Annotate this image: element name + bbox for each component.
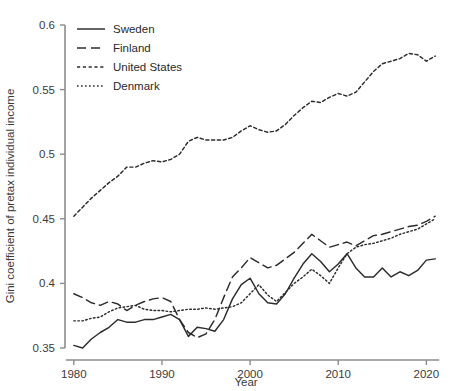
- series-line-finland: [74, 216, 435, 337]
- series-lines: [74, 53, 435, 348]
- y-tick-label: 0.55: [33, 84, 55, 96]
- y-tick-label: 0.6: [39, 19, 55, 31]
- series-line-sweden: [74, 254, 435, 348]
- y-tick-label: 0.35: [33, 342, 55, 354]
- x-axis-title: Year: [234, 376, 257, 388]
- y-axis-title: Gini coefficient of pretax individual in…: [4, 89, 16, 304]
- x-tick-label: 1980: [61, 368, 87, 380]
- chart-legend: SwedenFinlandUnited StatesDenmark: [77, 23, 182, 92]
- y-tick-label: 0.4: [39, 277, 56, 289]
- gini-coefficient-line-chart: 0.350.40.450.50.550.6 198019902000201020…: [0, 0, 451, 391]
- x-tick-label: 2010: [325, 368, 351, 380]
- legend-label-sweden: Sweden: [113, 23, 155, 35]
- y-axis-ticks: 0.350.40.450.50.550.6: [33, 19, 65, 354]
- chart-page: 0.350.40.450.50.550.6 198019902000201020…: [0, 0, 451, 391]
- y-tick-label: 0.45: [33, 213, 55, 225]
- x-tick-label: 2020: [414, 368, 440, 380]
- y-axis: 0.350.40.450.50.550.6: [33, 19, 65, 354]
- legend-label-finland: Finland: [113, 42, 151, 54]
- x-tick-label: 1990: [149, 368, 175, 380]
- series-line-united-states: [74, 53, 435, 216]
- legend-label-united-states: United States: [113, 61, 182, 73]
- legend-label-denmark: Denmark: [113, 80, 160, 92]
- y-tick-label: 0.5: [39, 148, 55, 160]
